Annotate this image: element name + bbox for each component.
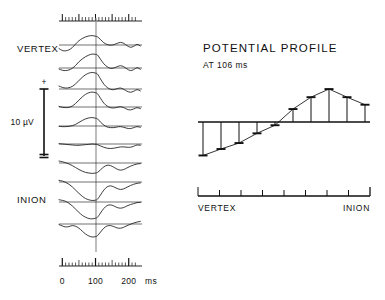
calibration-amplitude-label: 10 µV <box>11 117 35 127</box>
calibration-plus-sign: + <box>41 77 46 87</box>
waveform-trace <box>59 200 140 219</box>
vertex-label-right: VERTEX <box>198 203 236 213</box>
profile-plot <box>198 89 370 155</box>
electrode-axis: VERTEX INION <box>198 187 370 213</box>
time-axis: 0100200 ms <box>59 258 157 286</box>
time-axis-ticks <box>62 258 135 266</box>
inion-label-right: INION <box>343 203 370 213</box>
time-axis-unit-label: ms <box>145 276 157 286</box>
top-time-ruler <box>59 14 142 21</box>
right-panel: POTENTIAL PROFILE AT 106 ms VERTEX INION <box>198 42 370 213</box>
waveform-trace <box>59 118 140 129</box>
waveform-traces <box>59 36 142 237</box>
vertex-label-left: VERTEX <box>17 43 59 54</box>
profile-title: POTENTIAL PROFILE <box>203 42 338 54</box>
inion-label-left: INION <box>17 194 46 205</box>
figure-container: VERTEX INION + 10 µV 0100200 ms POT <box>0 0 385 300</box>
top-ruler-ticks <box>62 14 135 21</box>
time-axis-tick-label: 200 <box>121 276 136 286</box>
time-axis-tick-labels: 0100200 <box>60 276 136 286</box>
left-panel: VERTEX INION + 10 µV 0100200 ms <box>11 14 157 286</box>
waveform-trace <box>59 144 140 149</box>
electrode-axis-ticks <box>198 187 370 196</box>
figure-svg: VERTEX INION + 10 µV 0100200 ms POT <box>0 0 385 300</box>
waveform-trace <box>59 36 140 51</box>
time-axis-tick-label: 0 <box>60 276 65 286</box>
profile-subtitle: AT 106 ms <box>203 60 248 70</box>
waveform-trace <box>59 180 140 200</box>
time-axis-tick-label: 100 <box>88 276 103 286</box>
calibration-bar: + 10 µV <box>11 77 49 158</box>
